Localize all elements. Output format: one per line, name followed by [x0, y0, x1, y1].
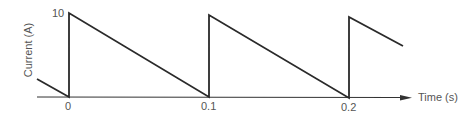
x-axis-line: [37, 97, 400, 98]
x-tick-0: 0: [65, 100, 71, 112]
y-axis-label: Current (A): [22, 15, 34, 85]
x-axis-arrow-icon: [400, 95, 412, 100]
y-tick-10: 10: [52, 7, 64, 19]
current-waveform: [37, 13, 403, 98]
x-axis-label: Time (s): [418, 91, 458, 103]
x-tick-0-2: 0.2: [341, 101, 356, 113]
x-tick-0-1: 0.1: [201, 100, 216, 112]
